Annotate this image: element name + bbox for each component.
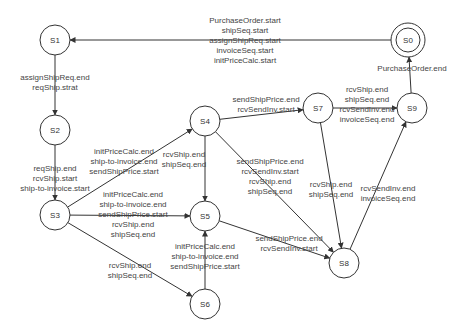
transition-event: shipSeq.end — [340, 95, 395, 105]
state-s0: S0 — [391, 23, 425, 57]
transition-event: ship-to-invoice.start — [20, 184, 89, 194]
transition-event: invoiceSeq.start — [209, 46, 281, 56]
transition-event: shipSeq.end — [108, 271, 152, 281]
transition-event: rcvShip.end — [236, 177, 303, 187]
edge-label: PurchaseOrder.end — [377, 64, 446, 74]
transition-event: shipSeq.end — [98, 230, 167, 240]
transition-event: rcvShip.start — [20, 174, 89, 184]
transition-event: sendShipPrice.end — [232, 95, 299, 105]
state-label: S0 — [403, 36, 413, 45]
edge-label: reqShip.endrcvShip.startship-to-invoice.… — [20, 164, 89, 194]
state-label: S5 — [200, 212, 210, 221]
edge-s9-s0 — [409, 57, 411, 93]
transition-event: sendShipPrice.start — [170, 262, 239, 272]
edge-label: assignShipReq.endreqShip.strat — [20, 73, 89, 93]
transition-event: rcvShip.end — [162, 150, 206, 160]
state-s2: S2 — [40, 115, 70, 145]
transition-event: rcvSendInv.start — [236, 167, 303, 177]
state-label: S8 — [339, 259, 349, 268]
state-s8: S8 — [329, 248, 359, 278]
edge-label: sendShipPrice.endrcvSendInv.startrcvShip… — [236, 157, 303, 197]
edge-label: rcvShip.endshipSeq.end — [108, 261, 152, 281]
state-label: S1 — [50, 36, 60, 45]
transition-event: ship-to-invoice.end — [89, 157, 158, 167]
transition-event: invoiceSeq.end — [361, 194, 416, 204]
transition-event: initPriceCalc.start — [209, 56, 281, 66]
edge-label: sendShipPrice.endrcvSendInv.start — [255, 234, 322, 254]
transition-event: assignShipReq.start — [209, 36, 281, 46]
transition-event: reqShip.strat — [20, 83, 89, 93]
state-s5: S5 — [190, 201, 220, 231]
state-s9: S9 — [397, 93, 427, 123]
transition-event: shipSeq.end — [162, 160, 206, 170]
transition-event: shipSeq.end — [309, 190, 353, 200]
state-label: S4 — [200, 117, 210, 126]
transition-event: shipSeq.end — [236, 187, 303, 197]
edge-label: PurchaseOrder.startshipSeq.startassignSh… — [209, 16, 281, 66]
edge-label: initPriceCalc.endship-to-invoice.endsend… — [89, 147, 158, 177]
edge-label: rcvShip.endshipSeq.end — [309, 180, 353, 200]
transition-event: sendShipPrice.start — [89, 167, 158, 177]
state-s3: S3 — [40, 200, 70, 230]
transition-event: rcvSendInv.end — [361, 184, 416, 194]
edge-label: rcvSendInv.endinvoiceSeq.end — [361, 184, 416, 204]
state-label: S3 — [50, 211, 60, 220]
edge-label: rcvShip.endshipSeq.endrcvSendInv.endinvo… — [340, 85, 395, 125]
edge-label: initPriceCalc.endship-to-invoice.endsend… — [98, 190, 167, 240]
edge-label: sendShipPrice.endrcvSendInv.start — [232, 95, 299, 115]
transition-event: initPriceCalc.end — [98, 190, 167, 200]
transition-event: shipSeq.start — [209, 26, 281, 36]
transition-event: invoiceSeq.end — [340, 115, 395, 125]
transition-event: rcvSendInv.start — [255, 244, 322, 254]
state-label: S2 — [50, 126, 60, 135]
transition-event: reqShip.end — [20, 164, 89, 174]
transition-event: rcvShip.end — [108, 261, 152, 271]
transition-event: PurchaseOrder.end — [377, 64, 446, 74]
transition-event: rcvSendInv.start — [232, 105, 299, 115]
transition-event: rcvShip.end — [98, 220, 167, 230]
transition-event: initPriceCalc.end — [89, 147, 158, 157]
transition-event: sendShipPrice.end — [255, 234, 322, 244]
state-label: S9 — [407, 104, 417, 113]
edge-label: initPriceCalc.endship-to-invoice.endsend… — [170, 242, 239, 272]
state-s1: S1 — [40, 25, 70, 55]
transition-event: sendShipPrice.end — [236, 157, 303, 167]
state-label: S7 — [313, 104, 323, 113]
transition-event: rcvSendInv.end — [340, 105, 395, 115]
transition-event: rcvShip.end — [340, 85, 395, 95]
arrow-icon — [409, 57, 411, 93]
state-s4: S4 — [190, 106, 220, 136]
transition-event: initPriceCalc.end — [170, 242, 239, 252]
transition-event: PurchaseOrder.start — [209, 16, 281, 26]
state-s7: S7 — [303, 93, 333, 123]
transition-event: rcvShip.end — [309, 180, 353, 190]
edge-label: rcvShip.endshipSeq.end — [162, 150, 206, 170]
transition-event: ship-to-invoice.end — [98, 200, 167, 210]
transition-event: ship-to-invoice.end — [170, 252, 239, 262]
transition-event: assignShipReq.end — [20, 73, 89, 83]
state-s6: S6 — [190, 289, 220, 319]
state-label: S6 — [200, 300, 210, 309]
transition-event: sendShipPrice.start — [98, 210, 167, 220]
